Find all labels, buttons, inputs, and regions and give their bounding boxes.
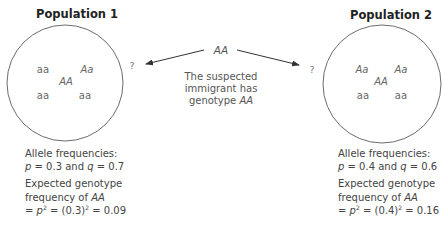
population-2-genotype: Aa xyxy=(356,65,369,75)
arrow-to-population-2 xyxy=(237,50,299,65)
expected-frequency-equation: = p2 = (0.3)2 = 0.09 xyxy=(25,204,126,217)
allele-frequencies-values: p = 0.3 and q = 0.7 xyxy=(25,160,126,173)
immigrant-caption-line-2: immigrant has xyxy=(166,83,276,95)
immigrant-genotype-label: AA xyxy=(214,45,228,56)
expected-frequency-line-1: Expected genotype xyxy=(25,177,126,190)
expected-frequency-line-2: frequency of AA xyxy=(338,191,439,204)
population-2-title: Population 2 xyxy=(350,8,432,22)
immigrant-caption-line-1: The suspected xyxy=(166,71,276,83)
population-1-info: Allele frequencies: p = 0.3 and q = 0.7 … xyxy=(25,147,126,217)
population-1-title: Population 1 xyxy=(36,7,118,21)
allele-frequencies-header: Allele frequencies: xyxy=(338,147,439,160)
population-2-genotype: Aa xyxy=(395,65,408,75)
population-1-genotype: aa xyxy=(37,65,49,75)
allele-frequencies-header: Allele frequencies: xyxy=(25,147,126,160)
immigrant-caption-line-3: genotype AA xyxy=(166,95,276,107)
expected-frequency-line-2: frequency of AA xyxy=(25,191,126,204)
expected-frequency-equation: = p2 = (0.4)2 = 0.16 xyxy=(338,204,439,217)
population-2-genotype: aa xyxy=(395,91,407,101)
population-1-question-mark: ? xyxy=(129,61,134,71)
population-1-genotype: AA xyxy=(59,77,73,87)
expected-frequency-line-1: Expected genotype xyxy=(338,177,439,190)
population-1-genotype: Aa xyxy=(81,65,94,75)
immigrant-caption: The suspected immigrant has genotype AA xyxy=(166,71,276,107)
population-2-genotype: aa xyxy=(357,91,369,101)
population-1-genotype: aa xyxy=(79,91,91,101)
population-2-genotype: AA xyxy=(374,77,388,87)
arrow-to-population-1 xyxy=(146,50,204,64)
population-2-question-mark: ? xyxy=(309,65,314,75)
population-1-genotype: aa xyxy=(37,91,49,101)
allele-frequencies-values: p = 0.4 and q = 0.6 xyxy=(338,160,439,173)
population-2-info: Allele frequencies: p = 0.4 and q = 0.6 … xyxy=(338,147,439,217)
